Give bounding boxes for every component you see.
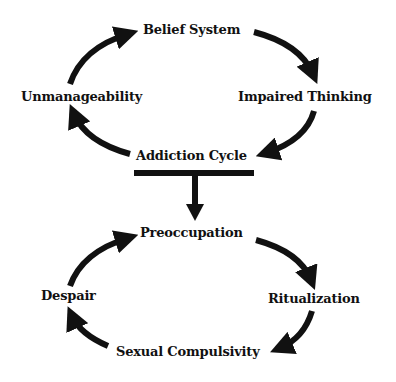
- node-despair: Despair: [41, 288, 96, 304]
- arrow-belief-system-to-impaired-thinking: [254, 32, 313, 74]
- node-ritualization: Ritualization: [268, 291, 360, 307]
- arrow-unmanageability-to-belief-system: [70, 34, 128, 84]
- addiction-cycle-diagram: Belief System Impaired Thinking Addictio…: [0, 0, 396, 382]
- arrow-sexual-compulsivity-to-despair: [72, 316, 108, 346]
- node-impaired-thinking: Impaired Thinking: [238, 89, 372, 105]
- t-arrowhead: [186, 204, 204, 221]
- t-bar: [134, 170, 254, 176]
- cycle-connector: [134, 170, 254, 221]
- arrow-ritualization-to-sexual-compulsivity: [280, 311, 312, 348]
- node-unmanageability: Unmanageability: [21, 89, 142, 105]
- node-belief-system: Belief System: [143, 22, 240, 38]
- arrow-addiction-cycle-to-unmanageability: [74, 114, 130, 154]
- node-preoccupation: Preoccupation: [140, 225, 243, 241]
- diagram-arrows: [0, 0, 396, 382]
- arrow-preoccupation-to-ritualization: [256, 240, 311, 280]
- t-stem: [192, 176, 198, 206]
- arrow-despair-to-preoccupation: [70, 238, 128, 286]
- node-sexual-compulsivity: Sexual Compulsivity: [116, 344, 260, 360]
- arrow-impaired-thinking-to-addiction-cycle: [266, 111, 314, 153]
- node-addiction-cycle: Addiction Cycle: [136, 148, 247, 164]
